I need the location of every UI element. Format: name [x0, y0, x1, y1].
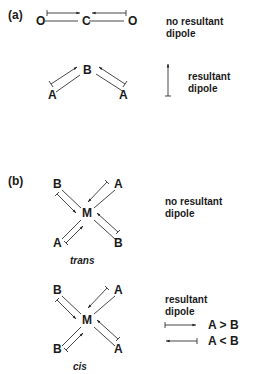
trans-note-line1: no resultant — [165, 196, 222, 208]
resultant-up-arrow — [165, 64, 171, 96]
trans-caption: trans — [70, 256, 94, 266]
bent-note: resultant dipole — [188, 71, 230, 95]
cis-note-line2: dipole — [165, 306, 207, 318]
bent-note-line2: dipole — [188, 83, 230, 95]
cis-note-line1: resultant — [165, 294, 207, 306]
part-a-label: (a) — [8, 9, 23, 21]
cis-ligand-bottom-right: A — [114, 343, 123, 355]
trans-ligand-top-right: A — [114, 178, 123, 190]
part-b-label: (b) — [8, 175, 23, 187]
cis-caption: cis — [73, 362, 87, 372]
atom-a-left: A — [48, 89, 57, 101]
trans-ligand-bottom-right: B — [114, 237, 123, 249]
atom-c: C — [82, 15, 91, 27]
cis-ligand-bottom-left: B — [53, 343, 62, 355]
cis-center-metal: M — [82, 314, 92, 326]
key-arrow-left — [166, 338, 197, 344]
atom-o-right: O — [128, 15, 137, 27]
trans-note: no resultant dipole — [165, 196, 222, 220]
trans-ligand-top-left: B — [53, 178, 62, 190]
atom-b: B — [83, 64, 92, 76]
trans-center-metal: M — [82, 207, 92, 219]
linear-note-line2: dipole — [166, 28, 223, 40]
linear-note-line1: no resultant — [166, 16, 223, 28]
cis-ligand-top-left: B — [53, 284, 62, 296]
key-a-less-b: A < B — [208, 335, 239, 347]
key-arrow-right — [165, 322, 196, 328]
bent-note-line1: resultant — [188, 71, 230, 83]
linear-note: no resultant dipole — [166, 16, 223, 40]
cis-ligand-top-right: A — [114, 284, 123, 296]
atom-a-right: A — [119, 89, 128, 101]
trans-ligand-bottom-left: A — [53, 237, 62, 249]
trans-note-line2: dipole — [165, 208, 222, 220]
atom-o-left: O — [36, 15, 45, 27]
cis-note: resultant dipole — [165, 294, 207, 318]
key-a-greater-b: A > B — [208, 319, 239, 331]
